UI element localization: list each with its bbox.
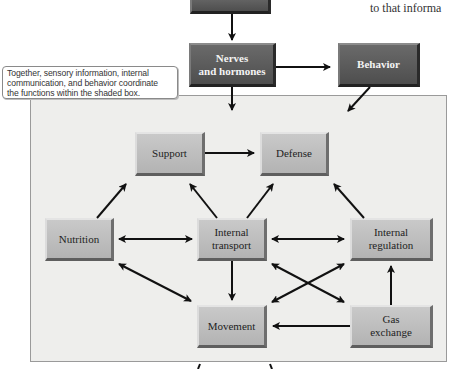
nerves-label-line2: and hormones — [199, 65, 266, 78]
movement-label: Movement — [208, 320, 256, 333]
defense-label: Defense — [276, 147, 312, 160]
internal-transport-line2: transport — [212, 239, 251, 252]
behavior-label: Behavior — [357, 58, 400, 71]
arrow-bottom-left-fragment — [198, 364, 200, 369]
nutrition-label: Nutrition — [59, 233, 99, 246]
internal-regulation-line1: Internal — [369, 226, 414, 239]
node-nutrition: Nutrition — [45, 218, 114, 261]
node-defense: Defense — [260, 132, 329, 176]
top-sensory-box — [190, 0, 271, 14]
gas-exchange-line1: Gas — [370, 313, 412, 326]
node-internal-regulation: Internal regulation — [350, 218, 433, 261]
support-label: Support — [152, 147, 187, 160]
callout-line-1: Together, sensory information, internal — [7, 68, 173, 78]
gas-exchange-line2: exchange — [370, 326, 412, 339]
callout-line-2: communication, and behavior coordinate — [7, 78, 173, 88]
node-support: Support — [135, 132, 205, 176]
internal-transport-line1: Internal — [212, 226, 251, 239]
nerves-label-line1: Nerves — [199, 52, 266, 65]
internal-regulation-line2: regulation — [369, 239, 414, 252]
arrow-bottom-right-fragment — [270, 364, 272, 369]
node-gas-exchange: Gas exchange — [350, 305, 433, 348]
callout-line-3: the functions within the shaded box. — [7, 88, 173, 98]
callout-note: Together, sensory information, internal … — [2, 66, 178, 99]
behavior-box: Behavior — [338, 43, 420, 87]
node-movement: Movement — [197, 305, 267, 348]
nerves-hormones-box: Nerves and hormones — [189, 43, 276, 87]
node-internal-transport: Internal transport — [197, 218, 267, 261]
caption-fragment: to that informa — [370, 1, 441, 16]
